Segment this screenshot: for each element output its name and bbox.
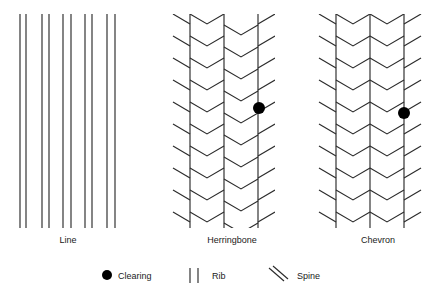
clearing-dot: [398, 107, 410, 119]
legend-label-clearing: Clearing: [118, 271, 152, 281]
panel-label-herringbone: Herringbone: [207, 235, 257, 245]
panel-label-line: Line: [59, 235, 76, 245]
clearing-dot: [253, 102, 265, 114]
panel-label-chevron: Chevron: [361, 235, 395, 245]
legend-item-clearing: Clearing: [102, 270, 152, 281]
filled-circle-icon: [102, 270, 112, 280]
legend-label-rib: Rib: [212, 271, 226, 281]
figure-background: [0, 0, 439, 302]
legend-label-spine: Spine: [297, 271, 320, 281]
tread-pattern-figure: Line Herringbone Chevron Clearing Rib Sp…: [0, 0, 439, 302]
